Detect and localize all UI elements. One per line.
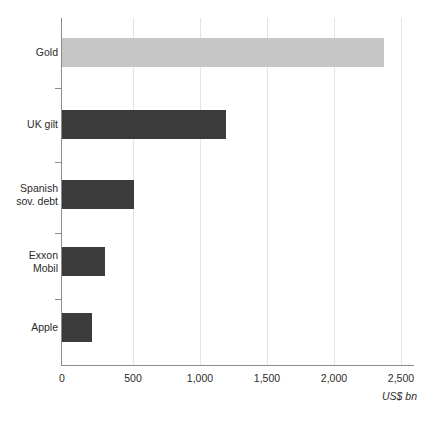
x-tick-label-500: 500 <box>124 372 142 385</box>
category-label-exxon-mobil: Exxon Mobil <box>0 249 58 274</box>
bar-chart: Gold UK gilt Spanish sov. debt Exxon Mob… <box>0 0 430 421</box>
bar-uk-gilt[interactable] <box>62 110 226 139</box>
x-axis-unit-label: US$ bn <box>382 390 417 402</box>
category-label-apple: Apple <box>0 321 58 334</box>
x-tick-label-0: 0 <box>59 372 65 385</box>
y-axis-tick-1 <box>55 88 62 89</box>
gridline-2000 <box>334 18 335 365</box>
category-label-gold: Gold <box>0 46 58 59</box>
x-axis-line <box>61 365 414 366</box>
x-tick-label-1500: 1,500 <box>254 372 280 385</box>
gridline-2500 <box>401 18 402 365</box>
x-tick-label-2500: 2,500 <box>388 372 414 385</box>
bar-exxon-mobil[interactable] <box>62 247 105 276</box>
category-label-spanish-sov-debt: Spanish sov. debt <box>0 182 58 207</box>
gridline-1000 <box>200 18 201 365</box>
y-axis-tick-2 <box>55 162 62 163</box>
y-axis-tick-3 <box>55 233 62 234</box>
bar-gold[interactable] <box>62 38 384 67</box>
bar-apple[interactable] <box>62 313 92 342</box>
gridline-1500 <box>267 18 268 365</box>
x-tick-label-2000: 2,000 <box>321 372 347 385</box>
x-tick-label-1000: 1,000 <box>187 372 213 385</box>
y-axis-tick-4 <box>55 299 62 300</box>
category-label-uk-gilt: UK gilt <box>0 118 58 131</box>
bar-spanish-sov-debt[interactable] <box>62 180 134 209</box>
